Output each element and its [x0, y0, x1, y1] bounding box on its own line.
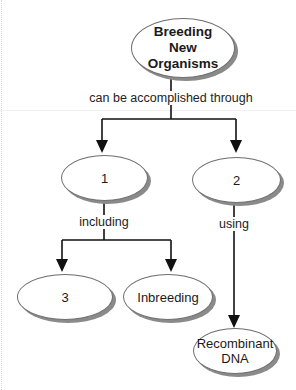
node-breeding-new-organisms: Breeding New Organisms	[131, 18, 235, 78]
node-label: Inbreeding	[137, 290, 198, 305]
node-label: 2	[233, 173, 240, 188]
node-label: Breeding New Organisms	[148, 24, 219, 72]
node-label: Recombinant DNA	[197, 336, 274, 366]
node-inbreeding: Inbreeding	[123, 274, 213, 320]
node-recombinant-dna: Recombinant DNA	[193, 328, 277, 374]
link-label-including: including	[77, 215, 130, 229]
arrowhead-icon	[228, 315, 240, 328]
link-label-using: using	[217, 217, 251, 231]
node-label: 1	[101, 171, 108, 186]
arrowhead-icon	[165, 259, 177, 272]
arrowhead-icon	[230, 140, 242, 153]
link-label-can-be-accomplished-through: can be accomplished through	[87, 91, 254, 105]
node-2: 2	[192, 157, 281, 203]
node-3: 3	[17, 274, 113, 320]
arrowhead-icon	[56, 259, 68, 272]
node-label: 3	[61, 290, 68, 305]
arrowhead-icon	[96, 140, 108, 153]
node-1: 1	[61, 155, 148, 201]
